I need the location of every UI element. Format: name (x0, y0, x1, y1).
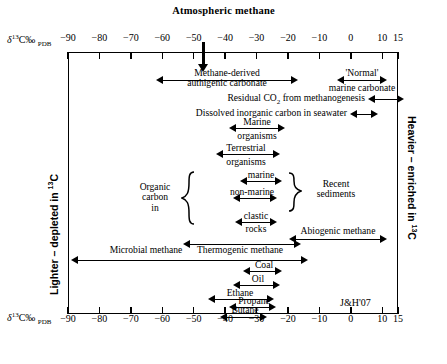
thermogenic-methane-label: Thermogenic methane (197, 245, 283, 255)
axis-tick-top--80 (99, 52, 100, 59)
oil-label: Oil (252, 274, 264, 284)
atmospheric-methane-pointer-shaft (202, 42, 204, 65)
residual-co2-text-a: Residual CO (227, 92, 276, 103)
tick-label-bottom--90: −90 (54, 313, 82, 324)
tick-label-bottom--70: −70 (117, 313, 145, 324)
page-title: Atmospheric methane (0, 5, 447, 16)
axis-tick-top--70 (130, 52, 131, 59)
recent-sediments-brace (288, 172, 302, 212)
axis-tick-top-0 (350, 52, 351, 59)
tick-label-top--10: −10 (305, 32, 333, 43)
axis-label-right-text: Heavier – enriched in (406, 116, 418, 225)
marine-organisms-line1: Marine (243, 117, 271, 127)
attribution-label: J&H'07 (340, 297, 371, 308)
organic-carbon-in-label: Organic carbon in (131, 182, 179, 213)
tick-label-top--80: −80 (85, 32, 113, 43)
tick-label-bottom--80: −80 (85, 313, 113, 324)
tick-label-bottom--50: −50 (180, 313, 208, 324)
tick-label-bottom--10: −10 (305, 313, 333, 324)
organic-carbon-line3: in (131, 203, 179, 213)
axis-tick-top--30 (256, 52, 257, 59)
tick-label-bottom--60: −60 (148, 313, 176, 324)
methane-derived-line2: authigenic carbonate (187, 78, 267, 88)
tick-label-bottom-15: 15 (384, 313, 412, 324)
recent-sediments-label: Recent sediments (308, 179, 364, 200)
axis-tick-top-15 (397, 52, 398, 59)
axis-label-left-text: Lighter – depleted in (48, 189, 60, 295)
axis-label-left-tail: C (48, 174, 60, 182)
diagram-canvas: Atmospheric methane −90−80−70−60−50−40−3… (0, 0, 447, 364)
clastic-rocks-line1: clastic (244, 211, 269, 221)
abiogenic-methane-label: Abiogenic methane (301, 226, 376, 236)
terrestrial-organisms-line2: organisms (226, 157, 265, 167)
organic-carbon-non-marine-label: non-marine (230, 187, 274, 197)
organic-carbon-brace-left (181, 171, 195, 225)
axis-caption-top: δ13C‰ PDB (7, 33, 51, 48)
axis-label-left: Lighter – depleted in 13C (47, 174, 60, 295)
butane-label: Butane (231, 305, 258, 315)
normal-marine-carbonate-line1: 'Normal' (346, 68, 379, 78)
tick-label-bottom--20: −20 (274, 313, 302, 324)
coal-label: Coal (255, 260, 273, 270)
axis-tick-top--90 (67, 52, 68, 59)
tick-label-top--60: −60 (148, 32, 176, 43)
axis-tick-top--50 (193, 52, 194, 59)
axis-label-right: Heavier – enriched in 13C (406, 116, 419, 240)
microbial-methane-label: Microbial methane (110, 245, 183, 255)
axis-tick-top-10 (382, 52, 383, 59)
tick-label-top--90: −90 (54, 32, 82, 43)
axis-tick-top--20 (287, 52, 288, 59)
tick-label-top--20: −20 (274, 32, 302, 43)
axis-tick-top--40 (224, 52, 225, 59)
tick-label-top-0: 0 (337, 32, 365, 43)
axis-label-right-tail: C (406, 232, 418, 240)
axis-tick-top--10 (319, 52, 320, 59)
residual-co2-text-b: from methanogenesis (280, 92, 365, 103)
axis-tick-top--60 (162, 52, 163, 59)
terrestrial-organisms-line1: Terrestrial (226, 143, 265, 153)
tick-label-top--40: −40 (211, 32, 239, 43)
tick-label-top--30: −30 (243, 32, 271, 43)
recent-sediments-line2: sediments (308, 189, 364, 199)
clastic-rocks-line2: rocks (246, 224, 267, 234)
organic-carbon-marine-label: marine (248, 170, 275, 180)
axis-label-left-sup: 13 (47, 182, 54, 190)
axis-caption-bottom: δ13C‰ PDB (7, 311, 51, 326)
tick-label-top--70: −70 (117, 32, 145, 43)
tick-label-bottom-0: 0 (337, 313, 365, 324)
marine-organisms-line2: organisms (237, 131, 276, 141)
tick-label-top-15: 15 (384, 32, 412, 43)
